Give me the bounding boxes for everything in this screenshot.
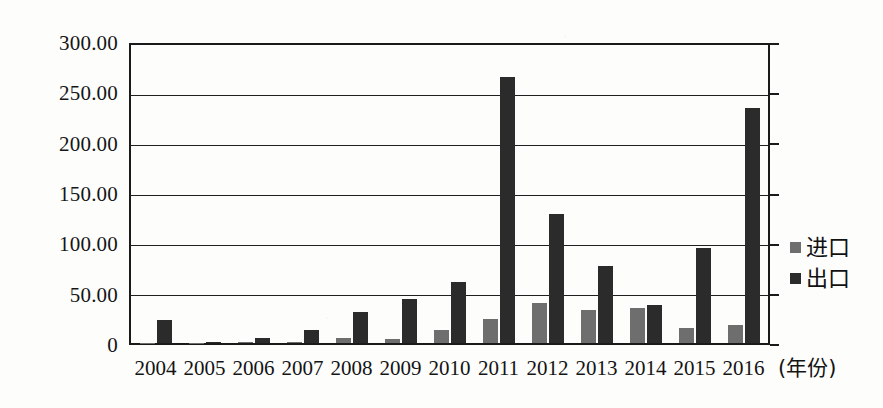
x-axis: (年份) 20042005200620072008200920102011201…	[129, 356, 883, 386]
x-axis-title: (年份)	[778, 356, 836, 380]
y-tick-mark	[770, 294, 779, 296]
bar-import	[483, 319, 498, 343]
bar-import	[728, 325, 743, 343]
y-tick-mark	[770, 43, 779, 45]
x-tick-label: 2006	[228, 356, 280, 380]
legend-swatch-icon	[790, 273, 801, 284]
bar-import	[532, 303, 547, 343]
y-tick-mark	[770, 143, 779, 145]
bar-export	[157, 320, 172, 343]
bar-import	[385, 339, 400, 343]
bar-group	[425, 45, 474, 343]
x-tick-label: 2009	[375, 356, 427, 380]
x-tick-label: 2011	[473, 356, 525, 380]
bar-export	[304, 330, 319, 343]
legend-swatch-icon	[790, 242, 801, 253]
bar-import	[434, 330, 449, 343]
bar-export	[696, 248, 711, 343]
bar-export	[206, 342, 221, 343]
bar-group	[670, 45, 719, 343]
bar-export	[402, 299, 417, 343]
y-tick-label: 100.00	[18, 234, 118, 255]
x-tick-label: 2005	[179, 356, 231, 380]
x-tick-label: 2013	[571, 356, 623, 380]
bar-group	[229, 45, 278, 343]
bar-group	[523, 45, 572, 343]
x-tick-label: 2007	[277, 356, 329, 380]
legend-item-export: 出口	[790, 263, 880, 294]
x-tick-label: 2016	[718, 356, 770, 380]
legend-item-import: 进口	[790, 232, 880, 263]
bar-group	[572, 45, 621, 343]
bar-series-group	[131, 45, 768, 343]
bar-import	[238, 342, 253, 343]
legend-label: 进口	[806, 236, 850, 260]
bar-export	[451, 282, 466, 343]
bar-group	[621, 45, 670, 343]
bar-export	[353, 312, 368, 343]
legend: 进口 出口	[790, 232, 880, 294]
bar-group	[474, 45, 523, 343]
bar-export	[745, 108, 760, 343]
y-tick-label: 300.00	[18, 33, 118, 54]
bar-import	[287, 342, 302, 343]
y-tick-label: 250.00	[18, 83, 118, 104]
x-tick-label: 2012	[522, 356, 574, 380]
bar-import	[336, 338, 351, 343]
y-tick-label: 50.00	[18, 285, 118, 306]
y-tick-label: 150.00	[18, 184, 118, 205]
bar-chart: 300.00 250.00 200.00 150.00 100.00 50.00…	[0, 0, 883, 408]
bar-group	[278, 45, 327, 343]
y-tick-mark	[770, 93, 779, 95]
y-tick-label: 0	[18, 335, 118, 356]
bar-export	[647, 305, 662, 343]
y-tick-mark	[770, 194, 779, 196]
y-tick-mark	[770, 344, 779, 346]
x-tick-label: 2008	[326, 356, 378, 380]
x-tick-label: 2004	[130, 356, 182, 380]
bar-group	[719, 45, 768, 343]
x-tick-label: 2010	[424, 356, 476, 380]
bar-group	[180, 45, 229, 343]
bar-export	[598, 266, 613, 343]
y-tick-mark	[770, 244, 779, 246]
bar-group	[327, 45, 376, 343]
bar-export	[500, 77, 515, 343]
bar-export	[255, 338, 270, 343]
bar-export	[549, 214, 564, 343]
x-tick-label: 2014	[620, 356, 672, 380]
bar-import	[581, 310, 596, 343]
y-axis: 300.00 250.00 200.00 150.00 100.00 50.00…	[18, 0, 118, 408]
legend-label: 出口	[806, 267, 850, 291]
bar-import	[630, 308, 645, 343]
y-tick-label: 200.00	[18, 134, 118, 155]
bar-group	[131, 45, 180, 343]
x-tick-label: 2015	[669, 356, 721, 380]
bar-import	[679, 328, 694, 343]
bar-group	[376, 45, 425, 343]
